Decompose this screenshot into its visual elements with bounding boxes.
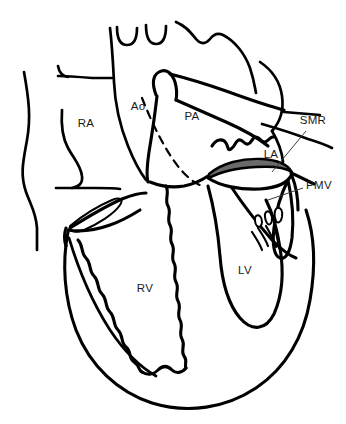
aortic-arch-superior (176, 22, 256, 93)
chordae-tendineae-1 (255, 215, 262, 226)
mitral-annulus-shaded-ring (209, 159, 292, 178)
brachiocephalic-branch-1-icon (117, 27, 137, 45)
right-ventricle-septal-trabeculation (166, 186, 186, 368)
label-ao: Ao (131, 100, 146, 112)
chest-wall-contour (23, 72, 37, 250)
label-smr: SMR (300, 114, 326, 126)
chordae-tendineae-3 (275, 208, 283, 223)
pulmonary-vein-superior (260, 62, 283, 131)
label-ra: RA (78, 117, 95, 129)
heart-diagram-canvas: RA Ao PA SMR LA PMV LV RV (0, 0, 346, 424)
label-pa: PA (184, 110, 199, 122)
cardiac-diagram-figure: RA Ao PA SMR LA PMV LV RV (0, 0, 346, 424)
brachiocephalic-branch-2-icon (146, 25, 166, 44)
inferior-vena-cava-stub (56, 188, 120, 189)
pulmonary-artery-left-wall (147, 96, 157, 182)
label-la: LA (264, 148, 279, 160)
mitral-annulus-lower-rim (208, 174, 292, 189)
label-pmv: PMV (306, 179, 332, 191)
chordae-strand-4 (252, 232, 262, 250)
anterior-mitral-leaflet-wall (232, 188, 296, 258)
label-lv: LV (238, 264, 252, 276)
label-rv: RV (137, 282, 153, 294)
right-ventricle-free-wall (69, 238, 156, 376)
